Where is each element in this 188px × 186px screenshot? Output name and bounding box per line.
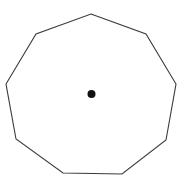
figure-canvas: [0, 0, 188, 186]
center-dot: [88, 90, 96, 98]
nonagon-diagram: [0, 0, 188, 186]
